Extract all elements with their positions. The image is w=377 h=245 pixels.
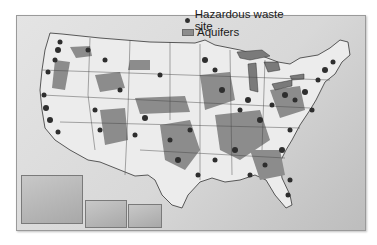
aquifer-swatch-icon [182, 29, 194, 36]
inset-alaska [21, 175, 83, 224]
us-outline [40, 33, 350, 208]
inset-hawaii [85, 200, 127, 228]
legend-item-hazardous-waste-site: Hazardous waste site [180, 14, 300, 26]
inset-puerto-rico [128, 204, 162, 228]
map-legend: Hazardous waste site Aquifers [180, 14, 300, 38]
hazardous-site-dot-icon [185, 18, 190, 23]
legend-label: Aquifers [197, 26, 239, 38]
